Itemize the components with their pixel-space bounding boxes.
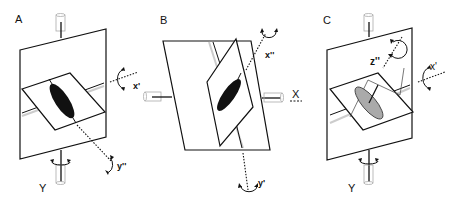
bottom-shaft bbox=[50, 150, 71, 185]
panel-a-label: A bbox=[15, 13, 23, 25]
axis-label-x-double-prime: x'' bbox=[265, 50, 274, 60]
panel-b: B X x'' bbox=[144, 14, 303, 192]
rotation-arrow-icon bbox=[423, 68, 430, 88]
panel-b-label: B bbox=[160, 14, 167, 26]
axis-label-y-double-prime: y'' bbox=[117, 161, 126, 171]
rotation-arrow-icon bbox=[117, 70, 124, 88]
axis-label-x: X bbox=[292, 88, 300, 100]
top-shaft bbox=[56, 14, 65, 39]
axis-label-y: Y bbox=[348, 182, 356, 194]
top-shaft bbox=[364, 14, 373, 38]
axis-label-y: Y bbox=[39, 182, 47, 194]
left-shaft bbox=[144, 92, 173, 101]
axis-label-x-prime: x' bbox=[430, 61, 437, 72]
axis-label-y-prime: y' bbox=[258, 178, 265, 188]
axis-label-z-double-prime: z'' bbox=[370, 56, 380, 67]
panel-a: A x' y'' bbox=[15, 13, 140, 194]
right-shaft bbox=[262, 93, 284, 102]
panel-c: C z'' x' bbox=[323, 14, 445, 195]
bottom-shaft bbox=[358, 150, 379, 185]
rotation-diagram: A x' y'' bbox=[0, 0, 460, 206]
panel-c-label: C bbox=[323, 14, 331, 26]
rotation-arrow-icon bbox=[262, 32, 276, 38]
axis-label-x-prime: x' bbox=[133, 81, 140, 91]
